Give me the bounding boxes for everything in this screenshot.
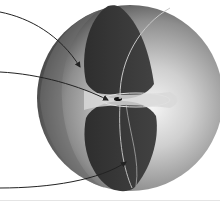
sphere-diagram <box>0 0 220 204</box>
bottom-divider <box>0 200 220 201</box>
center-dot-highlight <box>119 97 122 99</box>
